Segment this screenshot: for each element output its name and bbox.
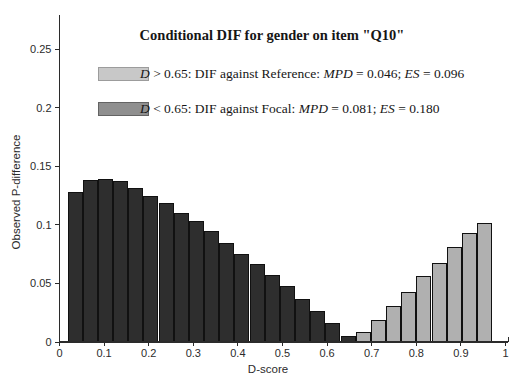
- x-tick-label: 0.3: [186, 347, 201, 359]
- x-axis-label: D-score: [248, 363, 288, 375]
- bar-focal: [265, 275, 279, 342]
- bar-focal: [144, 197, 158, 342]
- y-tick-label: 0.05: [30, 277, 51, 289]
- bar-reference: [356, 333, 370, 342]
- x-tick-label: 0.5: [275, 347, 290, 359]
- legend-text-focal: D < 0.65: DIF against Focal: MPD = 0.081…: [139, 101, 440, 116]
- dif-bar-chart: 00.10.20.30.40.50.60.70.80.9100.050.10.1…: [0, 0, 526, 392]
- bar-focal: [174, 213, 188, 342]
- x-tick-label: 0.1: [96, 347, 111, 359]
- y-tick-label: 0.25: [30, 43, 51, 55]
- x-tick-label: 0.8: [409, 347, 424, 359]
- x-tick-label: 0: [56, 347, 62, 359]
- bar-focal: [311, 312, 325, 343]
- bar-focal: [68, 192, 82, 342]
- x-tick-label: 0.6: [319, 347, 334, 359]
- x-tick-label: 0.2: [141, 347, 156, 359]
- bars-layer: [68, 179, 491, 342]
- bar-focal: [114, 181, 128, 342]
- bar-focal: [189, 221, 203, 342]
- bar-focal: [83, 180, 97, 342]
- y-tick-label: 0.1: [36, 219, 51, 231]
- bar-focal: [235, 254, 249, 342]
- bar-reference: [402, 293, 416, 342]
- x-tick-label: 1: [502, 347, 508, 359]
- bar-reference: [447, 247, 461, 342]
- bar-focal: [296, 300, 310, 342]
- bar-reference: [387, 307, 401, 342]
- bar-focal: [98, 179, 112, 342]
- bar-reference: [462, 233, 476, 342]
- y-axis-label: Observed P-difference: [10, 135, 22, 250]
- bar-reference: [371, 321, 385, 342]
- legend-text-reference: D > 0.65: DIF against Reference: MPD = 0…: [139, 66, 465, 81]
- bar-focal: [220, 244, 234, 342]
- bar-reference: [432, 264, 446, 343]
- bar-focal: [205, 232, 219, 342]
- legend: D > 0.65: DIF against Reference: MPD = 0…: [98, 66, 465, 116]
- bar-reference: [478, 224, 492, 342]
- bar-focal: [280, 287, 294, 342]
- bar-focal: [326, 323, 340, 342]
- bar-reference: [417, 276, 431, 342]
- bar-focal: [341, 336, 355, 342]
- dif-figure: 00.10.20.30.40.50.60.70.80.9100.050.10.1…: [0, 0, 526, 392]
- bar-focal: [250, 265, 264, 342]
- y-tick-label: 0.15: [30, 160, 51, 172]
- chart-title: Conditional DIF for gender on item "Q10": [140, 27, 405, 43]
- bar-focal: [129, 189, 143, 343]
- y-tick-label: 0: [45, 336, 51, 348]
- y-tick-label: 0.2: [36, 102, 51, 114]
- bar-focal: [159, 204, 173, 342]
- x-tick-label: 0.7: [364, 347, 379, 359]
- x-tick-label: 0.9: [453, 347, 468, 359]
- x-tick-label: 0.4: [230, 347, 245, 359]
